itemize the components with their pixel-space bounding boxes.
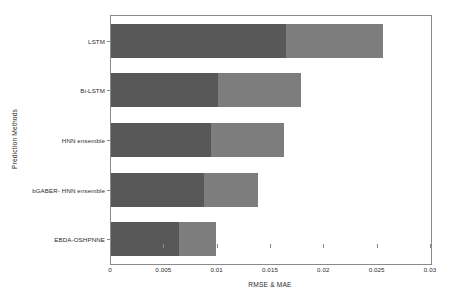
- bar-row: [111, 73, 301, 107]
- chart-figure: LSTMBi-LSTMHNN ensemblebGABER- HNN ensem…: [0, 0, 454, 303]
- bar-segment-rmse: [111, 222, 179, 256]
- x-tick-label: 0.005: [155, 266, 171, 273]
- y-tick-mark: [107, 41, 111, 42]
- y-tick-label: Bi-LSTM: [80, 87, 105, 94]
- y-tick-label: EBDA-OSHPNNE: [54, 236, 105, 243]
- x-tick-mark: [270, 244, 271, 248]
- bar-row: [111, 173, 258, 207]
- bar-segment-mae: [204, 173, 258, 207]
- x-tick-label: 0.015: [262, 266, 278, 273]
- y-axis-title: Prediction Methods: [11, 109, 18, 169]
- y-tick-mark: [107, 190, 111, 191]
- x-tick-mark: [430, 244, 431, 248]
- y-tick-mark: [107, 239, 111, 240]
- x-tick-label: 0.025: [369, 266, 385, 273]
- bar-segment-mae: [211, 123, 284, 157]
- bar-segment-mae: [218, 73, 301, 107]
- y-tick-label: HNN ensemble: [62, 137, 105, 144]
- bar-segment-mae: [286, 24, 383, 58]
- bar-segment-rmse: [111, 123, 211, 157]
- bar-row: [111, 222, 216, 256]
- x-tick-mark: [217, 244, 218, 248]
- x-tick-label: 0.02: [317, 266, 329, 273]
- y-tick-mark: [107, 90, 111, 91]
- bar-segment-rmse: [111, 173, 204, 207]
- y-tick-label: bGABER- HNN ensemble: [32, 186, 105, 193]
- bar-row: [111, 123, 284, 157]
- x-tick-mark: [163, 244, 164, 248]
- x-tick-mark: [323, 244, 324, 248]
- bar-segment-rmse: [111, 24, 286, 58]
- x-tick-label: 0: [108, 266, 112, 273]
- x-tick-mark: [110, 244, 111, 248]
- bar-row: [111, 24, 383, 58]
- y-tick-label: LSTM: [88, 37, 105, 44]
- x-axis-title: RMSE & MAE: [110, 281, 430, 288]
- x-tick-label: 0.03: [424, 266, 436, 273]
- y-tick-mark: [107, 140, 111, 141]
- bars-layer: [111, 16, 431, 264]
- plot-area: LSTMBi-LSTMHNN ensemblebGABER- HNN ensem…: [110, 15, 432, 265]
- bar-segment-rmse: [111, 73, 218, 107]
- x-tick-mark: [377, 244, 378, 248]
- bar-segment-mae: [179, 222, 215, 256]
- x-tick-label: 0.01: [210, 266, 222, 273]
